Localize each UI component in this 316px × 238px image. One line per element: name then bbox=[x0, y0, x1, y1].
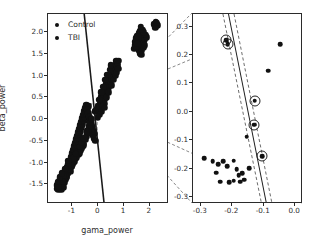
inset-scatter-point bbox=[234, 167, 239, 172]
inset-y-tick-mark-5 bbox=[189, 168, 192, 169]
main-y-tick-mark-4 bbox=[44, 118, 47, 119]
support-vector-ring bbox=[257, 151, 268, 162]
inset-scatter-point bbox=[244, 134, 249, 139]
inset-scatter-point bbox=[202, 156, 207, 161]
inset-y-tick-mark-4 bbox=[189, 139, 192, 140]
inset-scatter-point bbox=[214, 171, 219, 176]
inset-scatter-point bbox=[211, 159, 216, 164]
inset-plot-area bbox=[193, 14, 301, 202]
main-y-tick-2: 1.0 bbox=[1, 70, 43, 79]
inset-x-tick-1: -0.2 bbox=[224, 206, 238, 215]
main-y-tick-3: 0.5 bbox=[1, 92, 43, 101]
main-x-tick-3: 2 bbox=[146, 206, 151, 215]
filled-circle-marker-icon bbox=[55, 36, 59, 40]
inset-x-tick-2: -0.1 bbox=[256, 206, 270, 215]
main-y-tick-5: -0.5 bbox=[1, 135, 43, 144]
legend-item-control: Control bbox=[55, 18, 95, 31]
inset-scatter-point bbox=[266, 68, 271, 73]
main-x-tick-2: 1 bbox=[121, 206, 126, 215]
inset-decision-boundary-line bbox=[228, 14, 266, 202]
main-y-tick-7: -1.5 bbox=[1, 179, 43, 188]
inset-scatter-point bbox=[240, 171, 245, 176]
main-y-tick-1: 1.5 bbox=[1, 49, 43, 58]
inset-x-tick-mark-0 bbox=[200, 203, 201, 206]
main-y-tick-6: -1.0 bbox=[1, 157, 43, 166]
inset-scatter-point bbox=[278, 42, 283, 47]
main-x-tick-0: -1 bbox=[68, 206, 75, 215]
support-vector-ring bbox=[248, 119, 259, 130]
inset-scatter-point bbox=[221, 159, 226, 164]
inset-x-tick-mark-3 bbox=[294, 203, 295, 206]
inset-scatter-point bbox=[227, 180, 232, 185]
inset-scatter-point bbox=[231, 178, 236, 183]
main-x-tick-1: 0 bbox=[95, 206, 100, 215]
inset-y-tick-6: -0.3 bbox=[146, 191, 188, 200]
main-y-tick-mark-1 bbox=[44, 53, 47, 54]
support-vector-ring bbox=[222, 39, 233, 50]
main-x-tick-mark-1 bbox=[97, 203, 98, 206]
inset-x-tick-3: 0.0 bbox=[288, 206, 299, 215]
inset-x-tick-mark-1 bbox=[231, 203, 232, 206]
main-y-tick-mark-2 bbox=[44, 75, 47, 76]
main-y-tick-mark-5 bbox=[44, 140, 47, 141]
y-axis-title: beta_power bbox=[0, 85, 7, 132]
main-y-tick-mark-7 bbox=[44, 183, 47, 184]
inset-y-tick-5: -0.2 bbox=[146, 163, 188, 172]
inset-scatter-point bbox=[231, 158, 236, 163]
filled-circle-marker-icon bbox=[55, 23, 59, 27]
legend-label-control: Control bbox=[68, 20, 95, 29]
inset-y-tick-3: 0.0 bbox=[146, 106, 188, 115]
inset-y-tick-mark-2 bbox=[189, 82, 192, 83]
main-x-tick-mark-2 bbox=[123, 203, 124, 206]
support-vector-ring bbox=[249, 95, 260, 106]
inset-y-tick-1: 0.2 bbox=[146, 50, 188, 59]
inset-x-tick-0: -0.3 bbox=[193, 206, 207, 215]
inset-scatter-point bbox=[247, 166, 252, 171]
inset-scatter-point bbox=[218, 179, 223, 184]
inset-x-tick-mark-2 bbox=[263, 203, 264, 206]
inset-y-tick-0: 0.3 bbox=[146, 21, 188, 30]
inset-y-tick-2: 0.1 bbox=[146, 78, 188, 87]
inset-y-tick-mark-0 bbox=[189, 26, 192, 27]
inset-y-tick-mark-1 bbox=[189, 54, 192, 55]
main-y-tick-mark-3 bbox=[44, 96, 47, 97]
main-y-tick-mark-6 bbox=[44, 162, 47, 163]
figure-root: Control TBI 2.01.51.00.50.0-0.5-1.0-1.5 … bbox=[0, 0, 316, 238]
main-x-tick-mark-3 bbox=[149, 203, 150, 206]
main-y-tick-mark-0 bbox=[44, 31, 47, 32]
legend-item-tbi: TBI bbox=[55, 31, 95, 44]
legend: Control TBI bbox=[55, 18, 95, 44]
inset-y-tick-mark-6 bbox=[189, 196, 192, 197]
inset-scatter-point bbox=[242, 178, 247, 183]
legend-label-tbi: TBI bbox=[68, 33, 80, 42]
main-y-tick-0: 2.0 bbox=[1, 27, 43, 36]
inset-scatter-point bbox=[216, 162, 221, 167]
main-y-tick-4: 0.0 bbox=[1, 114, 43, 123]
inset-panel-lines bbox=[193, 14, 301, 202]
inset-scatter-point bbox=[225, 164, 230, 169]
zoom-inset-panel bbox=[192, 13, 302, 203]
inset-y-tick-mark-3 bbox=[189, 111, 192, 112]
x-axis-title: gama_power bbox=[81, 226, 132, 235]
inset-y-tick-4: -0.1 bbox=[146, 135, 188, 144]
main-x-tick-mark-0 bbox=[71, 203, 72, 206]
